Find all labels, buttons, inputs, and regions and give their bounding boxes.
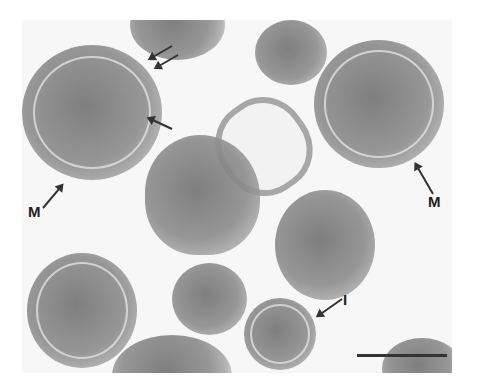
cell-bottom-center <box>112 335 232 373</box>
label-i: I <box>343 291 347 308</box>
cell-bottom-mid <box>172 263 247 335</box>
cell-top-mid <box>255 20 327 85</box>
cell-dark-right <box>275 190 375 300</box>
cell-triangular <box>145 135 260 255</box>
cell-large-left <box>22 45 162 180</box>
label-m-left: M <box>28 203 41 220</box>
cell-bottom-left <box>27 253 137 368</box>
label-m-right: M <box>428 193 441 210</box>
cell-large-right <box>314 40 444 168</box>
cell-i-labeled <box>244 298 316 370</box>
scale-bar <box>357 354 447 357</box>
micrograph <box>22 20 452 373</box>
